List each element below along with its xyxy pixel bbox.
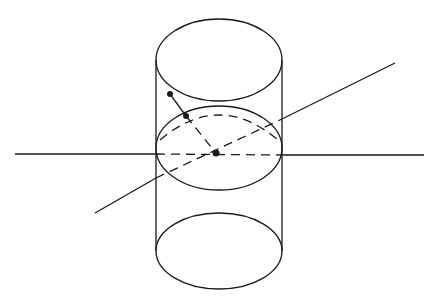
- center-point: [213, 150, 220, 157]
- outer-point: [167, 91, 173, 97]
- diagonal-axis-upper: [282, 63, 395, 119]
- diagonal-axis-lower: [95, 178, 156, 213]
- sphere-outline: [156, 106, 282, 190]
- cylinder-top-ellipse: [156, 19, 282, 101]
- cylinder-bottom-ellipse: [156, 213, 282, 289]
- radius-line-dashed: [186, 116, 216, 153]
- projection-line-solid: [170, 94, 186, 116]
- surface-point: [183, 113, 189, 119]
- cylinder-sphere-diagram: [0, 0, 435, 301]
- diagonal-axis-inner: [156, 119, 282, 178]
- equator-dashed-arc: [160, 115, 278, 140]
